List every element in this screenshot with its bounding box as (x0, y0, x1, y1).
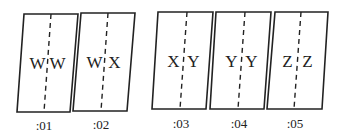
frame-label: :02 (93, 117, 110, 133)
frame-outline (210, 12, 271, 109)
left-letter: W (29, 55, 45, 72)
frame-label: :03 (173, 116, 190, 132)
center-dashed-line (238, 12, 245, 109)
frame-label: :05 (287, 116, 304, 132)
right-letter: W (49, 55, 65, 72)
left-letter: W (86, 54, 102, 71)
frame-panel (152, 12, 213, 109)
left-letter: X (167, 52, 179, 69)
frame-outline (152, 12, 213, 109)
frame-panel (17, 14, 78, 112)
right-letter: Y (245, 52, 257, 69)
right-letter: Z (302, 52, 312, 69)
center-dashed-line (180, 12, 187, 109)
frame-panel (210, 12, 271, 109)
right-letter: X (108, 54, 120, 71)
frame-panel (267, 12, 328, 109)
frame-label: :01 (36, 118, 53, 134)
frame-panel (73, 13, 135, 111)
frame-label: :04 (231, 116, 248, 132)
left-letter: Y (225, 52, 237, 69)
center-dashed-line (294, 12, 301, 109)
left-letter: Z (282, 52, 292, 69)
right-letter: Y (187, 52, 199, 69)
